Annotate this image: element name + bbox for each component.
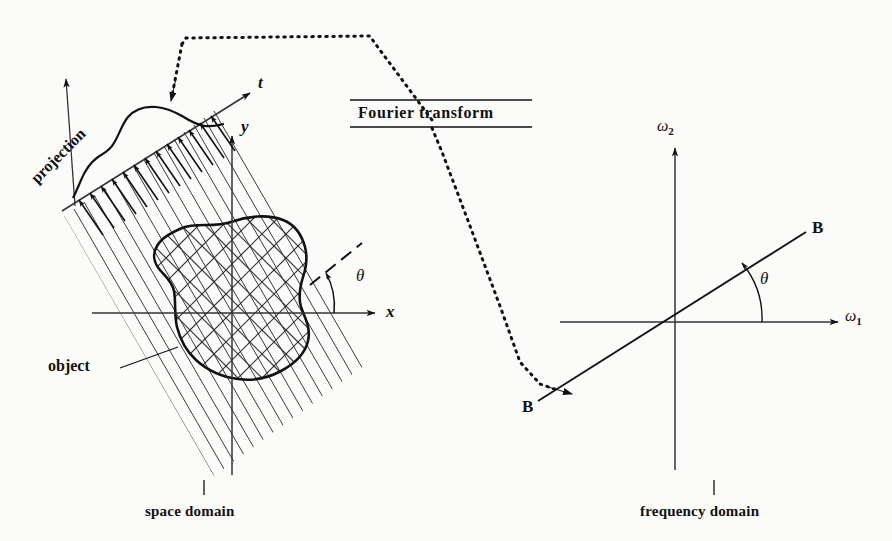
axis-omega1-label: ω1 (845, 308, 862, 327)
dotted-connector-bottom (432, 128, 560, 391)
dotted-connector-arrow-projection (171, 78, 176, 101)
projection-rays (79, 116, 235, 235)
theta-label-frequency: θ (760, 270, 768, 287)
projection-profile-curve (73, 107, 224, 198)
frequency-domain-caption: frequency domain (640, 504, 759, 519)
omega2-symbol: ω (657, 117, 668, 134)
omega1-symbol: ω (845, 307, 856, 324)
figure-canvas: projection object x y t θ Fourier transf… (0, 0, 892, 541)
bb-label-upper: B (812, 219, 823, 236)
axis-omega2-label: ω2 (657, 118, 674, 137)
fourier-transform-label: Fourier transform (358, 105, 494, 121)
radon-transform-diagram (0, 0, 892, 541)
axis-t-label: t (258, 74, 263, 91)
object-leader-line (120, 347, 178, 368)
omega1-subscript: 1 (856, 315, 862, 327)
axis-y-label: y (241, 118, 249, 135)
axis-x-label: x (386, 303, 395, 320)
bb-label-lower: B (522, 398, 533, 415)
space-domain-caption: space domain (145, 504, 235, 519)
theta-label-space: θ (356, 267, 364, 284)
omega2-subscript: 2 (668, 125, 674, 137)
theta-reference-dashed-line (310, 243, 362, 285)
object-label: object (48, 358, 90, 374)
bb-line (538, 232, 806, 401)
